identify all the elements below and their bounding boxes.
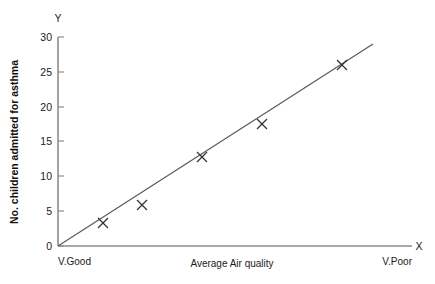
- y-tick-label-20: 20: [40, 101, 52, 113]
- x-category-left-label: V.Good: [58, 256, 91, 267]
- y-tick-label-0: 0: [46, 240, 52, 252]
- x-axis-title: Average Air quality: [190, 258, 273, 269]
- y-tick-label-15: 15: [40, 135, 52, 147]
- y-tick-label-25: 25: [40, 66, 52, 78]
- x-category-right-label: V.Poor: [382, 256, 412, 267]
- y-tick-label-30: 30: [40, 31, 52, 43]
- asthma-air-quality-chart: 30 25 20 15 10 5 0 Y X No. children admi…: [0, 0, 435, 284]
- x-axis-letter: X: [415, 240, 422, 252]
- y-tick-label-5: 5: [46, 205, 52, 217]
- y-axis-letter: Y: [54, 12, 61, 24]
- y-axis-title: No. children admitted for asthma: [8, 60, 20, 224]
- y-tick-label-10: 10: [40, 170, 52, 182]
- chart-svg: 30 25 20 15 10 5 0 Y X No. children admi…: [0, 0, 435, 284]
